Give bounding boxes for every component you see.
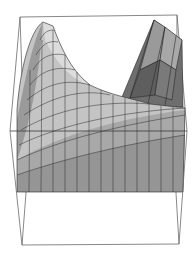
right-peak bbox=[122, 20, 183, 107]
surface-plot bbox=[0, 0, 196, 255]
surface-plot-svg bbox=[0, 0, 196, 255]
